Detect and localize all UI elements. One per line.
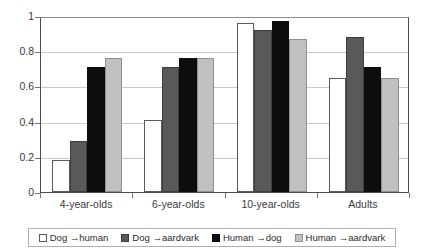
plot-area [40,17,409,193]
bar [179,58,197,192]
y-axis-tick-label: 0.4 [0,117,34,128]
bar [329,78,347,192]
x-axis-tick-mark [317,193,318,198]
bar [162,67,180,192]
bar [364,67,382,192]
bar [272,21,290,192]
legend-swatch-icon [295,234,303,242]
x-axis-tick-mark [225,193,226,198]
bar-chart: 00.20.40.60.81 4-year-olds6-year-olds10-… [0,0,424,252]
y-axis-tick-label: 0.6 [0,81,34,92]
chart-legend: Dog →humanDog →aardvarkHuman →dogHuman →… [28,228,396,247]
bar [289,39,307,192]
bar [254,30,272,192]
x-axis-tick-mark [409,193,410,198]
x-axis-tick-mark [132,193,133,198]
legend-label: Dog →aardvark [132,232,199,243]
y-axis-tick-label: 0.2 [0,152,34,163]
bar [105,58,123,192]
legend-label: Human →aardvark [306,232,386,243]
bar [381,78,399,192]
x-axis-category-label: 10-year-olds [225,199,317,211]
legend-swatch-icon [121,234,129,242]
x-axis-category-label: Adults [317,199,409,211]
bar [237,23,255,192]
bar [52,160,70,192]
y-axis-tick-label: 1 [0,11,34,22]
legend-item[interactable]: Dog →aardvark [121,232,199,243]
x-axis-category-label: 4-year-olds [40,199,132,211]
x-axis-category-label: 6-year-olds [132,199,224,211]
bar [346,37,364,192]
bar [87,67,105,192]
x-axis-tick-mark [40,193,41,198]
legend-swatch-icon [212,234,220,242]
bar [144,120,162,192]
legend-item[interactable]: Human →aardvark [295,232,386,243]
legend-label: Human →dog [223,232,282,243]
bar [197,58,215,192]
bar [70,141,88,192]
legend-item[interactable]: Dog →human [39,232,109,243]
legend-label: Dog →human [50,232,109,243]
legend-item[interactable]: Human →dog [212,232,282,243]
y-axis-tick-label: 0 [0,187,34,198]
y-axis-tick-label: 0.8 [0,46,34,57]
legend-swatch-icon [39,234,47,242]
